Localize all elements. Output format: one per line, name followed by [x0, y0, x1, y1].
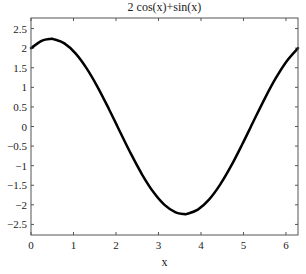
- x-tick-label: 4: [198, 239, 204, 251]
- y-tick-label: 1.5: [13, 62, 27, 74]
- y-tick-label: 0: [22, 121, 28, 133]
- y-tick-label: −2.5: [7, 218, 27, 230]
- x-tick-label: 3: [156, 239, 162, 251]
- x-tick-label: 5: [241, 239, 247, 251]
- x-tick-label: 2: [113, 239, 119, 251]
- x-tick-label: 6: [283, 239, 289, 251]
- x-tick-label: 1: [71, 239, 77, 251]
- y-tick-labels: −2.5−2−1.5−1−0.500.511.522.5: [7, 23, 27, 231]
- x-tick-labels: 0123456: [28, 239, 289, 251]
- y-tick-label: −1: [15, 160, 27, 172]
- x-tick-label: 0: [28, 239, 34, 251]
- y-tick-label: 1: [22, 81, 28, 93]
- y-tick-label: −0.5: [7, 140, 27, 152]
- tick-marks: [31, 18, 298, 235]
- y-tick-label: 2.5: [13, 23, 27, 35]
- x-axis-label: x: [31, 255, 298, 269]
- y-tick-label: −2: [15, 199, 27, 211]
- y-tick-label: 0.5: [13, 101, 27, 113]
- line-chart: −2.5−2−1.5−1−0.500.511.522.5 0123456: [0, 0, 306, 274]
- data-line: [31, 39, 298, 215]
- y-tick-label: 2: [22, 42, 28, 54]
- axes-frame: [31, 18, 298, 235]
- y-tick-label: −1.5: [7, 179, 27, 191]
